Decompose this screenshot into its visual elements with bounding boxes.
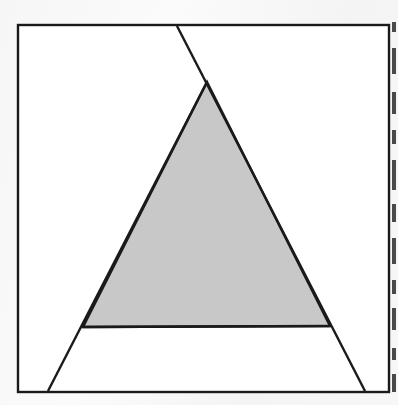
page-edge-mark	[392, 308, 396, 330]
page-edge-mark	[392, 92, 396, 114]
page-edge-mark	[392, 280, 396, 294]
page-edge-mark	[392, 204, 396, 222]
page-edge-mark	[392, 130, 396, 144]
horizontal-base-line	[83, 326, 330, 327]
page-edge-mark	[392, 348, 396, 360]
geometry-figure	[0, 0, 398, 405]
page-edge-mark	[392, 48, 396, 74]
page-edge-mark	[392, 238, 396, 264]
page-edge-mark	[392, 22, 396, 32]
page-edge-scan-marks	[392, 0, 398, 405]
page-edge-mark	[392, 374, 396, 392]
figure-page	[0, 0, 398, 405]
page-edge-mark	[392, 160, 396, 190]
